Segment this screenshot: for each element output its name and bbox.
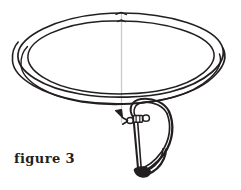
figure-caption: figure 3 xyxy=(14,152,75,165)
upper-ring-outer xyxy=(18,13,223,97)
swivel-barrel xyxy=(133,116,142,123)
hook-point xyxy=(134,167,150,177)
wire-tail xyxy=(123,122,127,124)
lower-coil-inner xyxy=(21,47,220,105)
figure-container: figure 3 xyxy=(0,0,241,190)
hook-shank xyxy=(134,119,142,174)
swivel-eye-right xyxy=(143,115,150,121)
